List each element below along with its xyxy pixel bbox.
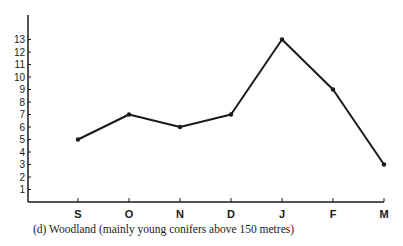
series [76, 37, 386, 166]
y-tick-label: 3 [19, 159, 25, 170]
figure-caption: (d) Woodland (mainly young conifers abov… [33, 223, 294, 235]
y-tick-label: 9 [19, 84, 25, 95]
data-point [76, 137, 80, 141]
y-tick-label: 8 [19, 97, 25, 108]
x-tick-label: F [330, 208, 337, 220]
data-point [331, 87, 335, 91]
data-point [229, 112, 233, 116]
y-tick-label: 1 [19, 184, 25, 195]
y-tick-label: 6 [19, 122, 25, 133]
x-tick-label: M [379, 208, 388, 220]
axes [28, 15, 384, 202]
x-tick-label: S [74, 208, 81, 220]
y-tick-label: 13 [14, 34, 26, 45]
data-point [280, 37, 284, 41]
data-point [127, 112, 131, 116]
data-point [178, 125, 182, 129]
y-tick-label: 7 [19, 109, 25, 120]
y-tick-label: 5 [19, 134, 25, 145]
x-tick-label: N [176, 208, 184, 220]
y-tick-label: 10 [14, 72, 26, 83]
x-tick-label: J [279, 208, 285, 220]
line-chart: 12345678910111213 SONDJFM [0, 0, 403, 246]
y-tick-label: 4 [19, 147, 25, 158]
x-tick-label: D [227, 208, 235, 220]
data-point [382, 162, 386, 166]
y-tick-label: 11 [15, 59, 26, 70]
series-line [78, 40, 384, 165]
y-tick-label: 2 [19, 172, 25, 183]
y-tick-label: 12 [14, 47, 26, 58]
x-tick-label: O [125, 208, 134, 220]
